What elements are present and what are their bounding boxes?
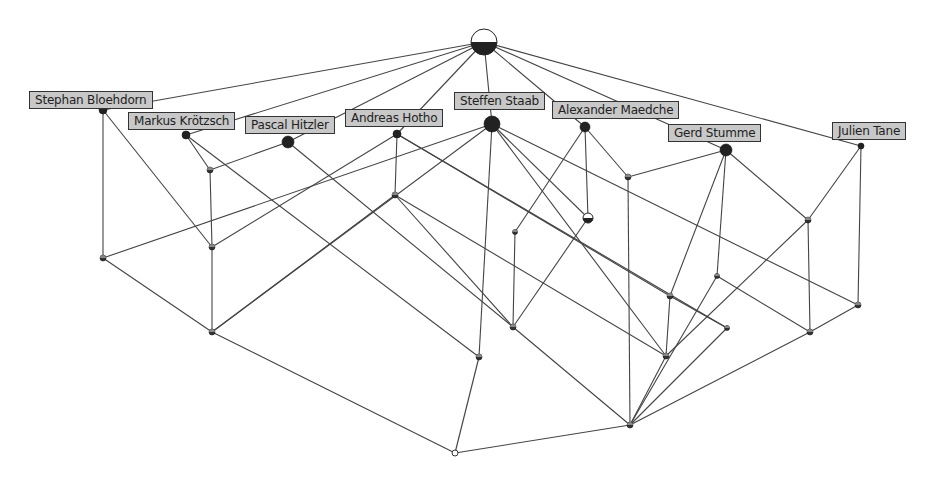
lattice-edge	[103, 258, 212, 332]
lattice-edge	[515, 127, 585, 232]
lattice-edge	[212, 195, 395, 332]
concept-node-SS[interactable]	[484, 116, 500, 132]
concept-node-n14[interactable]	[725, 326, 730, 331]
concept-node-PH[interactable]	[282, 136, 294, 148]
attribute-label-SS[interactable]: Steffen Staab	[454, 92, 545, 110]
concept-node-n12[interactable]	[209, 329, 215, 335]
lattice-edge	[670, 296, 727, 328]
lattice-edge	[666, 296, 670, 356]
attribute-label-JT[interactable]: Julien Tane	[832, 122, 906, 140]
concept-node-GS[interactable]	[720, 144, 732, 156]
lattice-edge	[492, 124, 588, 218]
concept-node-n7[interactable]	[100, 255, 106, 261]
lattice-edge	[455, 425, 630, 453]
concept-node-AH[interactable]	[393, 130, 401, 138]
lattice-edge	[858, 146, 861, 305]
lattice-edge	[726, 150, 808, 220]
attribute-label-AM[interactable]: Alexander Maedche	[552, 101, 679, 119]
attribute-label-MK[interactable]: Markus Krötzsch	[128, 112, 235, 130]
lattice-edge	[103, 42, 484, 110]
lattice-edge	[628, 177, 630, 425]
lattice-edge	[479, 124, 492, 357]
attribute-label-AH[interactable]: Andreas Hotho	[345, 109, 443, 127]
concept-node-n11[interactable]	[855, 302, 861, 308]
lattice-edge	[186, 135, 479, 357]
concept-node-n15[interactable]	[807, 329, 813, 335]
concept-lattice	[0, 0, 948, 479]
lattice-edge	[210, 170, 212, 247]
lattice-edge	[186, 135, 210, 170]
lattice-edge	[513, 232, 515, 327]
concept-node-n6[interactable]	[805, 217, 811, 223]
concept-node-AM[interactable]	[580, 122, 590, 132]
lattice-edge	[395, 195, 666, 356]
lattice-edge	[630, 356, 666, 425]
lattice-edge	[585, 127, 628, 177]
concept-node-n4[interactable]	[513, 230, 518, 235]
lattice-edge	[492, 124, 666, 356]
concept-node-n18[interactable]	[627, 422, 633, 428]
lattice-edge	[212, 134, 397, 247]
lattice-edge	[808, 220, 810, 332]
concept-node-T[interactable]	[471, 29, 497, 55]
concept-node-JT[interactable]	[858, 143, 864, 149]
lattice-edge	[808, 146, 861, 220]
attribute-label-GS[interactable]: Gerd Stumme	[668, 124, 761, 142]
lattice-edge	[513, 327, 630, 425]
lattice-edge	[717, 276, 810, 332]
attribute-label-SB[interactable]: Stephan Bloehdorn	[29, 91, 153, 109]
concept-node-n17[interactable]	[476, 354, 482, 360]
concept-node-MK[interactable]	[182, 131, 190, 139]
concept-node-n16[interactable]	[663, 353, 669, 359]
lattice-edge	[212, 332, 455, 453]
lattice-edge	[210, 142, 288, 170]
lattice-edge	[585, 127, 588, 218]
concept-node-n10[interactable]	[667, 293, 673, 299]
concept-node-B[interactable]	[452, 450, 458, 456]
lattice-edge	[455, 357, 479, 453]
concept-node-n5[interactable]	[583, 213, 593, 223]
concept-node-n1[interactable]	[207, 167, 213, 173]
lattice-edge	[810, 305, 858, 332]
concept-node-n9[interactable]	[715, 274, 720, 279]
concept-node-n3[interactable]	[392, 192, 398, 198]
concept-node-n13[interactable]	[510, 324, 516, 330]
concept-node-n8[interactable]	[209, 244, 215, 250]
lattice-edge	[628, 150, 726, 177]
lattice-edge	[513, 218, 588, 327]
lattice-edge	[395, 134, 397, 195]
concept-node-n2[interactable]	[625, 174, 631, 180]
lattice-edge	[288, 142, 513, 327]
attribute-label-PH[interactable]: Pascal Hitzler	[245, 116, 335, 134]
